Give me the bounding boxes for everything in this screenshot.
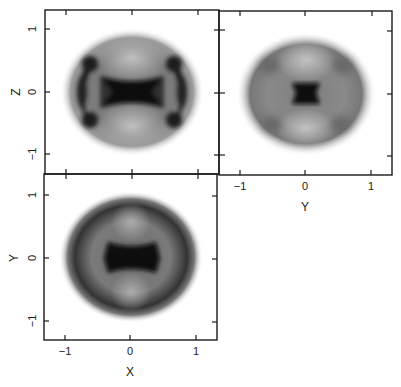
xy-ytick-neg1: −1 xyxy=(26,315,38,328)
xy-top-lobe xyxy=(111,202,151,242)
xy-xtick-neg1: −1 xyxy=(59,345,72,357)
panel-xz xyxy=(60,28,204,156)
xy-bowtie xyxy=(104,242,160,273)
yz-xtick-1: 1 xyxy=(368,180,374,192)
xz-ytick-neg1: −1 xyxy=(26,148,38,161)
panel-xy xyxy=(59,191,203,323)
xy-ytick-0: 0 xyxy=(26,255,38,261)
xz-top-lobe xyxy=(96,36,168,80)
yz-core xyxy=(292,83,320,104)
xy-xtick-1: 1 xyxy=(193,345,199,357)
xy-xtick-0: 0 xyxy=(127,345,133,357)
xz-ylabel: Z xyxy=(9,88,23,95)
yz-xlabel: Y xyxy=(301,200,309,214)
xy-xlabel: X xyxy=(126,365,134,379)
panel-yz xyxy=(236,32,376,156)
xz-ytick-1: 1 xyxy=(26,26,38,32)
xy-ylabel: Y xyxy=(7,254,21,262)
xy-bottom-lobe xyxy=(111,272,151,312)
yz-xtick-0: 0 xyxy=(302,180,308,192)
xz-bottom-lobe xyxy=(96,104,168,148)
yz-top-lobe xyxy=(276,38,336,82)
yz-xtick-neg1: −1 xyxy=(234,180,247,192)
projection-figure: 1 0 −1 Z −1 0 1 Y 1 0 −1 Y −1 0 1 X xyxy=(0,0,401,387)
xz-ytick-0: 0 xyxy=(26,89,38,95)
xy-ytick-1: 1 xyxy=(26,192,38,198)
yz-bottom-lobe xyxy=(276,108,336,148)
